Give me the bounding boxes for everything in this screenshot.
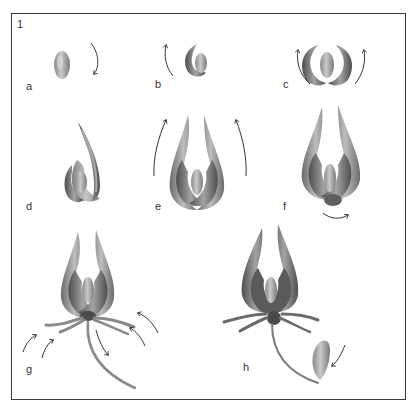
step-h-arrow-icon: [332, 345, 345, 366]
step-e-arrow-icon-left: [154, 120, 166, 176]
step-g-arrow-icon-3: [96, 330, 108, 355]
step-c-bud: [302, 45, 352, 85]
step-d-flower: [65, 122, 100, 202]
step-f-arrow-icon: [323, 213, 348, 218]
step-e-arrow-icon-right: [236, 120, 246, 176]
step-g-flower: [46, 230, 135, 388]
illustration-canvas: [0, 0, 417, 415]
step-e-flower: [170, 115, 224, 210]
step-h-flower: [224, 224, 330, 383]
step-b-arrow-icon: [165, 45, 173, 76]
step-g-arrow-icon-4: [138, 313, 158, 333]
step-g-arrow-icon-1: [23, 335, 36, 352]
step-c-arrow-icon-right: [355, 50, 365, 84]
step-a-arrow-icon: [91, 43, 98, 74]
step-g-arrow-icon-2: [42, 340, 53, 358]
step-f-flower: [302, 105, 360, 206]
step-g-arrow-icon-5: [130, 328, 145, 346]
step-b-bud: [185, 44, 207, 77]
step-a-bud: [54, 51, 70, 79]
